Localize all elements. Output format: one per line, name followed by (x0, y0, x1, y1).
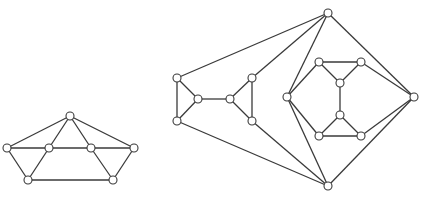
graph-edge (177, 99, 198, 121)
graph-edge (177, 121, 328, 186)
graph-node (173, 74, 181, 82)
graph-node (194, 95, 202, 103)
graph-figure (0, 0, 425, 199)
graph-edge (287, 13, 328, 97)
graph-node (173, 117, 181, 125)
graph-edge (361, 97, 414, 136)
graph-node (315, 58, 323, 66)
graph-edge (7, 148, 28, 180)
graph-node (283, 93, 291, 101)
graph-node (336, 79, 344, 87)
graph-edge (70, 116, 134, 148)
left-graph (3, 112, 138, 184)
graph-edge (361, 62, 414, 97)
graph-edge (252, 13, 328, 78)
graph-edge (113, 148, 134, 180)
graph-edge (252, 121, 328, 186)
graph-edge (287, 97, 328, 186)
left-graph-edges (7, 116, 134, 180)
right-graph (173, 9, 418, 190)
graph-node (324, 9, 332, 17)
graph-edge (7, 116, 70, 148)
graph-node (130, 144, 138, 152)
graph-node (336, 111, 344, 119)
graph-node (66, 112, 74, 120)
graph-edge (177, 13, 328, 78)
graph-node (87, 144, 95, 152)
graph-node (226, 95, 234, 103)
graph-edge (328, 97, 414, 186)
graph-edge (91, 148, 113, 180)
graph-edge (287, 97, 319, 136)
graph-edge (287, 62, 319, 97)
graph-node (248, 117, 256, 125)
graph-node (357, 132, 365, 140)
graph-edge (230, 78, 252, 99)
right-graph-edges (177, 13, 414, 186)
graph-node (248, 74, 256, 82)
graph-node (315, 132, 323, 140)
graph-node (324, 182, 332, 190)
graph-node (109, 176, 117, 184)
graph-node (410, 93, 418, 101)
graph-node (357, 58, 365, 66)
graph-node (24, 176, 32, 184)
graph-edge (230, 99, 252, 121)
graph-node (45, 144, 53, 152)
graph-edge (28, 148, 49, 180)
graph-node (3, 144, 11, 152)
